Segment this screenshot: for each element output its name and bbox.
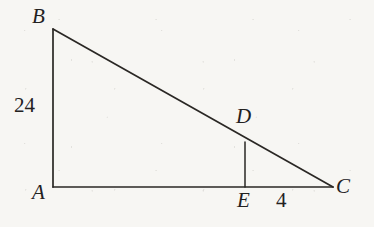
vertex-label-e: E — [237, 190, 250, 211]
vertex-label-c: C — [336, 176, 350, 197]
geometry-figure: B A C D E 24 4 — [0, 0, 374, 227]
measure-label-ec: 4 — [276, 190, 287, 211]
vertex-label-a: A — [32, 182, 45, 203]
vertex-label-b: B — [32, 6, 45, 27]
segment-bc — [53, 29, 333, 187]
triangle-drawing-canvas — [0, 0, 374, 227]
vertex-label-d: D — [236, 106, 251, 127]
measure-label-ab: 24 — [14, 95, 35, 116]
